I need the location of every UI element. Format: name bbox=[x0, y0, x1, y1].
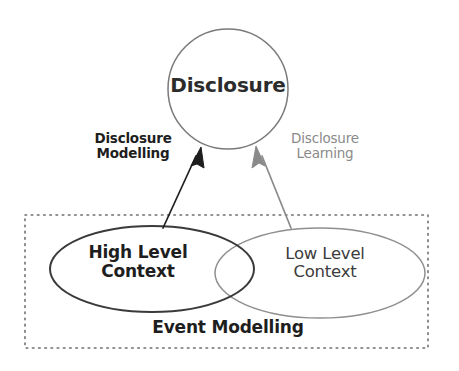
event-modelling-group-label: Event Modelling bbox=[128, 318, 328, 337]
low-level-context-node-label: Low Level Context bbox=[255, 245, 395, 282]
diagram-shapes bbox=[0, 0, 459, 371]
disclosure-learning-edge-label: Disclosure Learning bbox=[270, 131, 380, 161]
high-level-context-node-label: High Level Context bbox=[63, 243, 213, 281]
disclosure-node-label: Disclosure bbox=[148, 74, 308, 96]
disclosure-modelling-edge-label: Disclosure Modelling bbox=[78, 131, 188, 161]
diagram-canvas: Disclosure Disclosure Modelling Disclosu… bbox=[0, 0, 459, 371]
